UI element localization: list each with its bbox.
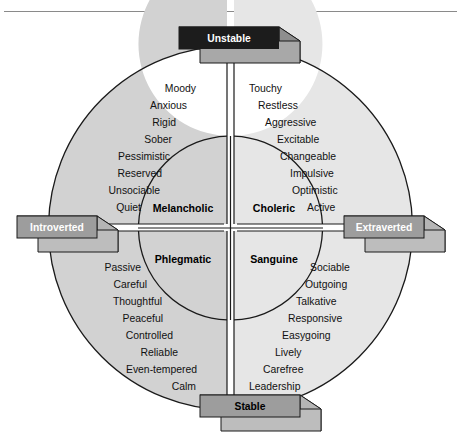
trait-sanguine-0: Sociable (310, 262, 350, 273)
trait-choleric-5: Impulsive (290, 168, 334, 179)
axis-label-unstable-text: Unstable (207, 33, 251, 44)
center-label-melancholic: Melancholic (153, 202, 214, 214)
trait-choleric-1: Restless (258, 100, 298, 111)
center-label-sanguine: Sanguine (250, 253, 298, 265)
trait-phlegmatic-2: Thoughtful (113, 296, 162, 307)
eysenck-personality-wheel-figure: Moody Anxious Rigid Sober Pessimistic Re… (0, 0, 461, 445)
center-label-choleric: Choleric (253, 202, 295, 214)
trait-choleric-2: Aggressive (265, 117, 317, 128)
trait-sanguine-7: Leadership (249, 381, 301, 392)
trait-phlegmatic-7: Calm (172, 381, 196, 392)
trait-phlegmatic-6: Even-tempered (126, 364, 197, 375)
trait-sanguine-3: Responsive (288, 313, 343, 324)
trait-choleric-6: Optimistic (292, 185, 338, 196)
trait-sanguine-1: Outgoing (305, 279, 347, 290)
trait-phlegmatic-0: Passive (105, 262, 142, 273)
trait-melancholic-0: Moody (165, 83, 197, 94)
center-label-phlegmatic: Phlegmatic (155, 253, 212, 265)
trait-sanguine-4: Easygoing (282, 330, 331, 341)
trait-phlegmatic-1: Careful (114, 279, 148, 290)
trait-sanguine-6: Carefree (263, 364, 304, 375)
axis-label-extraverted-text: Extraverted (356, 222, 413, 233)
trait-melancholic-5: Reserved (118, 168, 163, 179)
trait-choleric-7: Active (307, 202, 336, 213)
axis-label-stable[interactable]: Stable (200, 395, 321, 431)
trait-choleric-0: Touchy (249, 83, 283, 94)
trait-choleric-3: Excitable (277, 134, 319, 145)
trait-melancholic-3: Sober (144, 134, 172, 145)
trait-phlegmatic-3: Peaceful (123, 313, 163, 324)
trait-melancholic-1: Anxious (150, 100, 187, 111)
trait-melancholic-6: Unsociable (109, 185, 161, 196)
trait-sanguine-5: Lively (275, 347, 302, 358)
axis-label-stable-text: Stable (235, 401, 266, 412)
axis-label-introverted-text: Introverted (30, 222, 84, 233)
trait-melancholic-7: Quiet (116, 202, 141, 213)
trait-melancholic-4: Pessimistic (118, 151, 170, 162)
personality-wheel-diagram: Moody Anxious Rigid Sober Pessimistic Re… (0, 0, 461, 445)
trait-sanguine-2: Talkative (296, 296, 337, 307)
trait-phlegmatic-4: Controlled (126, 330, 174, 341)
trait-melancholic-2: Rigid (152, 117, 176, 128)
trait-choleric-4: Changeable (280, 151, 336, 162)
trait-phlegmatic-5: Reliable (140, 347, 178, 358)
axis-label-introverted[interactable]: Introverted (17, 216, 118, 252)
axis-label-unstable[interactable]: Unstable (179, 27, 300, 63)
